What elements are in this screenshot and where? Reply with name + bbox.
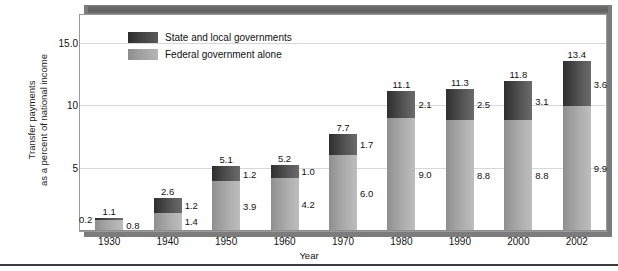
bar-group[interactable]: 11.12.19.0 [387,91,415,230]
bar-federal-value-label: 8.8 [535,170,548,181]
bar-federal-value-label: 8.8 [477,170,490,181]
x-axis-tick-label: 1950 [215,236,237,247]
bar-segment-federal[interactable] [329,155,357,230]
bar-total-label: 11.1 [393,79,411,90]
bar-segment-state-local[interactable] [154,198,182,213]
x-axis-baseline [80,230,606,231]
legend-item-federal: Federal government alone [128,47,292,62]
bar-group[interactable]: 13.43.69.9 [563,61,591,230]
legend-item-state: State and local governments [128,30,292,45]
bar-total-label: 5.2 [278,153,291,164]
bar-state-local-value-label: 2.1 [418,99,431,110]
x-axis-tick-label: 1990 [449,236,471,247]
bar-state-local-value-label: 1.7 [360,139,373,150]
bar-segment-state-local[interactable] [563,61,591,106]
chart-figure: Transfer payments as a percent of nation… [0,0,618,271]
bar-segment-federal[interactable] [154,213,182,231]
x-axis-tick-label: 1970 [332,236,354,247]
bar-segment-state-local[interactable] [446,89,474,120]
bar-federal-value-label: 9.0 [418,168,431,179]
legend-swatch-federal-icon [128,49,158,60]
x-axis-title: Year [0,250,618,261]
bar-federal-value-label: 3.9 [243,200,256,211]
bar-group[interactable]: 7.71.76.0 [329,134,357,230]
bar-total-label: 13.4 [568,49,587,60]
bar-segment-federal[interactable] [504,120,532,230]
x-axis-tick-label: 1960 [273,236,295,247]
x-axis-tick-label: 2002 [566,236,588,247]
bar-state-local-value-label: 1.2 [243,168,256,179]
bar-segment-state-local[interactable] [271,165,299,178]
bar-group[interactable]: 11.32.58.8 [446,89,474,230]
bar-segment-state-local[interactable] [387,91,415,117]
y-axis-tick-label: 5 [44,162,78,173]
bar-segment-federal[interactable] [563,106,591,230]
bar-total-label: 11.8 [509,69,527,80]
bar-total-label: 11.3 [451,77,469,88]
bar-segment-federal[interactable] [212,181,240,230]
x-axis-tick-label: 2000 [507,236,529,247]
bar-total-label: 5.1 [220,154,233,165]
x-axis-tick-label: 1940 [157,236,179,247]
bar-segment-federal[interactable] [387,118,415,231]
bar-state-local-value-label: 1.2 [185,200,198,211]
legend: State and local governments Federal gove… [128,30,292,64]
x-axis-tick-label: 1930 [98,236,120,247]
legend-label-state: State and local governments [165,32,292,43]
y-axis-ticks: 51015.0 [40,0,78,271]
bar-state-local-value-label: 0.2 [79,213,92,224]
bar-total-label: 2.6 [161,186,174,197]
bar-state-local-value-label: 1.0 [302,166,315,177]
bar-segment-state-local[interactable] [504,81,532,120]
bar-state-local-value-label: 3.6 [594,78,607,89]
bar-federal-value-label: 9.9 [594,163,607,174]
legend-swatch-state-icon [128,32,158,43]
bar-segment-state-local[interactable] [95,218,123,221]
bottom-rule [0,264,618,266]
y-axis-title-line1: Transfer payments [26,20,38,220]
bar-state-local-value-label: 3.1 [535,95,548,106]
bar-group[interactable]: 5.21.04.2 [271,165,299,230]
bar-segment-state-local[interactable] [329,134,357,155]
bar-federal-value-label: 6.0 [360,187,373,198]
x-axis-tick-label: 1980 [390,236,412,247]
bar-federal-value-label: 1.4 [185,216,198,227]
legend-label-federal: Federal government alone [165,49,282,60]
bar-segment-state-local[interactable] [212,166,240,181]
bar-total-label: 1.1 [103,206,116,217]
bar-federal-value-label: 0.8 [126,220,139,231]
bar-group[interactable]: 5.11.23.9 [212,166,240,230]
bar-federal-value-label: 4.2 [302,198,315,209]
bar-group[interactable]: 2.61.21.4 [154,198,182,231]
bar-total-label: 7.7 [336,122,349,133]
bar-segment-federal[interactable] [271,178,299,231]
y-axis-tick-label: 10 [44,100,78,111]
bar-segment-federal[interactable] [95,220,123,230]
bar-group[interactable]: 11.83.18.8 [504,81,532,230]
y-axis-tick-label: 15.0 [44,37,78,48]
bar-segment-federal[interactable] [446,120,474,230]
bar-state-local-value-label: 2.5 [477,99,490,110]
bar-group[interactable]: 1.10.20.8 [95,218,123,231]
